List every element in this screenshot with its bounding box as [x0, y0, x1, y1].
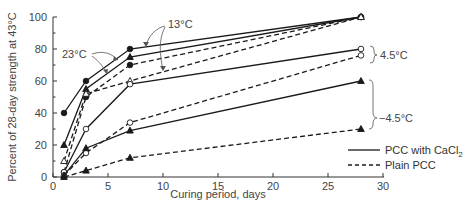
- y-tick-label: 60: [35, 75, 47, 87]
- data-point-marker: [127, 154, 134, 160]
- annotation-13c: 13°C: [168, 18, 193, 30]
- brace-4-5c: [370, 46, 377, 63]
- y-tick-label: 80: [35, 43, 47, 55]
- data-point-marker: [61, 158, 68, 164]
- data-point-marker: [127, 81, 133, 87]
- y-axis-title: Percent of 28-day strength at 43°C: [6, 12, 18, 182]
- annotation-minus-4-5c: −4.5°C: [379, 112, 413, 124]
- arrow-13c-a: [146, 26, 165, 46]
- x-axis-title: Curing period, days: [170, 188, 266, 200]
- data-series: [61, 14, 365, 180]
- x-tick-label: 5: [105, 180, 111, 192]
- x-tick-label: 0: [50, 180, 56, 192]
- chart: 020406080100 051015202530 Curing period,…: [0, 0, 473, 219]
- data-point-marker: [83, 126, 89, 132]
- arrow-13c-b: [160, 27, 165, 70]
- data-point-marker: [358, 53, 364, 59]
- x-tick-label: 25: [322, 180, 334, 192]
- legend-solid-label: PCC with CaCl2: [385, 144, 463, 159]
- annotation-4-5c: 4.5°C: [380, 49, 408, 61]
- legend-dashed-label: Plain PCC: [385, 159, 436, 171]
- data-point-marker: [83, 78, 89, 84]
- y-tick-label: 20: [35, 139, 47, 151]
- x-tick-label: 20: [267, 180, 279, 192]
- y-tick-label: 40: [35, 107, 47, 119]
- data-point-marker: [358, 126, 365, 132]
- legend: PCC with CaCl2 Plain PCC: [348, 144, 463, 171]
- series-line: [64, 17, 361, 172]
- arrowhead-icon: [160, 66, 166, 71]
- series-line: [64, 81, 361, 175]
- data-point-marker: [61, 142, 68, 148]
- x-tick-label: 30: [377, 180, 389, 192]
- series-line: [64, 49, 361, 172]
- data-point-marker: [127, 62, 133, 68]
- y-tick-label: 0: [41, 171, 47, 183]
- annotation-23c: 23°C: [62, 48, 87, 60]
- data-point-marker: [127, 120, 133, 126]
- data-point-marker: [127, 46, 133, 52]
- data-point-marker: [358, 78, 365, 84]
- y-tick-label: 100: [29, 11, 47, 23]
- series-line: [64, 129, 361, 177]
- data-point-marker: [61, 110, 67, 116]
- brace-minus-4-5c: [369, 80, 377, 129]
- data-point-marker: [358, 46, 364, 52]
- x-tick-label: 10: [157, 180, 169, 192]
